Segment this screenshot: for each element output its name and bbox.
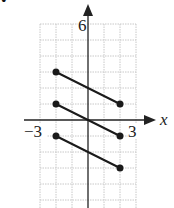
endpoint-dot: [117, 133, 124, 140]
graph: 6 −3 3 x: [0, 0, 174, 208]
endpoint-dot: [53, 133, 60, 140]
axes: [24, 14, 146, 208]
endpoint-dot: [53, 69, 60, 76]
y-max-label: 6: [78, 16, 87, 35]
endpoint-dot: [117, 101, 124, 108]
endpoint-dot: [117, 165, 124, 172]
x-axis-arrow-icon: [144, 115, 156, 125]
x-max-label: 3: [128, 122, 137, 141]
x-axis-label: x: [159, 110, 168, 129]
y-axis-arrow-icon: [83, 4, 93, 16]
endpoint-dot: [53, 101, 60, 108]
x-min-label: −3: [24, 122, 42, 141]
